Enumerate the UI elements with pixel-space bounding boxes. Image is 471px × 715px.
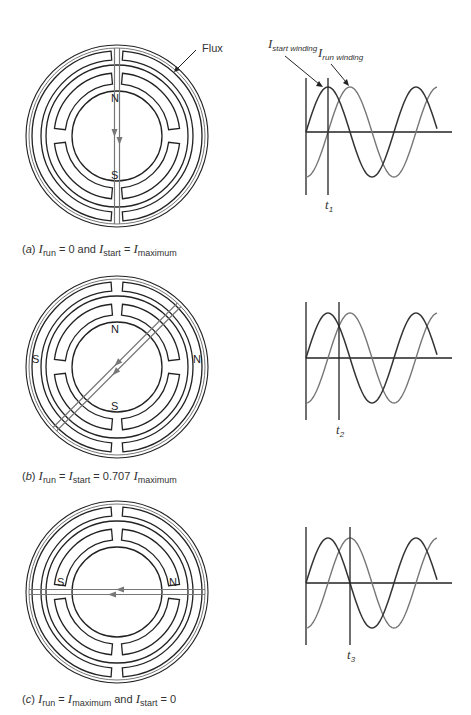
start-winding-label: Istart winding	[267, 36, 318, 53]
time-marker-label: t1	[325, 197, 333, 214]
pole-label-left: S	[32, 353, 39, 365]
stator-outer-circle	[26, 276, 208, 458]
pole-label-bottom: S	[111, 400, 118, 412]
rotor-bore-circle	[72, 322, 162, 412]
rotor-bore-circle	[72, 91, 162, 181]
stator-outer-circle	[26, 45, 208, 227]
flux-lines	[29, 504, 205, 680]
waveform-chart-a: t1	[306, 78, 452, 214]
split-phase-motor-diagram: NSt1(a) Irun​ = 0 and Istart​ = Imaximum…	[0, 0, 471, 715]
pole-label-top: N	[111, 92, 119, 104]
pole-label-bottom: S	[111, 169, 118, 181]
flux-arrow-icon	[112, 129, 118, 137]
time-marker-label: t3	[347, 647, 356, 664]
caption-a: (a) Irun​ = 0 and Istart​ = Imaximum​	[22, 241, 177, 258]
flux-lines	[29, 48, 205, 224]
pole-label-top: N	[111, 323, 119, 335]
flux-arrow-icon	[117, 137, 123, 145]
flux-label: Flux	[202, 42, 223, 54]
pole-label-left: S	[57, 576, 64, 588]
stator-panel-c: SN	[26, 501, 208, 683]
pole-label-right: N	[193, 353, 201, 365]
caption-c: (c) Irun​ = Imaximum​ and Istart​ = 0	[22, 691, 176, 708]
waveform-chart-b: t2	[306, 302, 452, 439]
caption-b: (b) Irun​ = Istart​ = 0.707 Imaximum​	[22, 468, 177, 485]
pole-label-right: N	[169, 576, 177, 588]
flux-arrow-icon	[116, 587, 124, 593]
annotations: FluxIstart windingIrun winding	[174, 36, 364, 87]
run-winding-label: Irun winding	[317, 45, 364, 62]
waveform-chart-c: t3	[306, 527, 452, 664]
flux-lines	[29, 279, 205, 455]
rotor-bore-circle	[72, 547, 162, 637]
stator-outer-circle	[26, 501, 208, 683]
flux-arrow-icon	[108, 592, 116, 598]
stator-panel-b: NSSN	[26, 276, 208, 458]
stator-panel-a: NS	[26, 45, 208, 227]
time-marker-label: t2	[336, 422, 345, 439]
